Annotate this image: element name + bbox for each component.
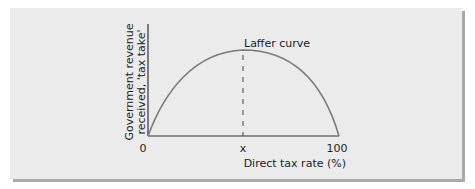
y-axis-label-line2: received, 'tax take' <box>135 29 148 134</box>
tick-label-0: 0 <box>140 142 147 155</box>
tick-label-x: x <box>240 142 247 155</box>
curve-label: Laffer curve <box>244 37 310 50</box>
tick-label-100: 100 <box>327 142 348 155</box>
y-axis-label: Government revenue received, 'tax take' <box>123 23 148 140</box>
x-axis-label: Direct tax rate (%) <box>244 157 346 170</box>
laffer-chart: Laffer curve Government revenue received… <box>0 0 475 189</box>
